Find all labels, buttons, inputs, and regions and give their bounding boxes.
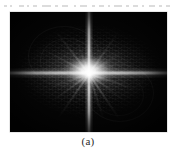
cutoff-text-fragment — [166, 5, 170, 7]
cutoff-text-fragment — [149, 5, 155, 7]
cutoff-text-fragment — [126, 5, 129, 7]
cutoff-text-fragment — [33, 5, 37, 7]
fourier-spectrum-image — [10, 12, 167, 132]
cutoff-text-fragment — [108, 5, 110, 7]
cutoff-text-fragment — [27, 5, 29, 7]
spectrum-arc — [94, 74, 144, 116]
cutoff-text-fragment — [42, 5, 51, 7]
cutoff-text-fragment — [92, 5, 95, 7]
cutoff-text-fragment — [10, 5, 12, 7]
spectrum-vertical-beam — [84, 12, 93, 132]
cutoff-text-fragment — [133, 5, 138, 7]
cutoff-text-line — [0, 0, 176, 7]
figure-panel — [10, 12, 167, 132]
cutoff-text-fragment — [19, 5, 24, 7]
cutoff-text-fragment — [80, 5, 87, 7]
cutoff-text-fragment — [99, 5, 104, 7]
figure-caption: (a) — [0, 134, 176, 148]
cutoff-text-fragment — [159, 5, 162, 7]
cutoff-text-fragment — [62, 5, 68, 7]
cutoff-text-fragment — [114, 5, 122, 7]
cutoff-text-fragment — [55, 5, 58, 7]
cutoff-text-fragment — [142, 5, 144, 7]
cutoff-text-fragment — [4, 5, 7, 7]
cutoff-text-fragment — [74, 5, 76, 7]
